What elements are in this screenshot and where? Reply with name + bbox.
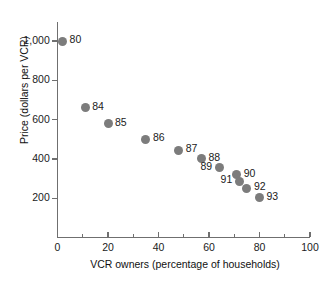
x-tick-40 <box>158 232 159 237</box>
y-tick-1,000 <box>52 40 57 41</box>
data-point-marker-87 <box>174 146 183 155</box>
y-tick-label-200: 200 <box>8 191 50 203</box>
x-tick-label-100: 100 <box>290 241 330 253</box>
y-tick-400 <box>52 158 57 159</box>
data-point-label-92: 92 <box>254 180 266 192</box>
data-point-label-89: 89 <box>200 160 212 172</box>
data-point-marker-84 <box>81 103 90 112</box>
x-tick-80 <box>259 232 260 237</box>
x-tick-label-80: 80 <box>240 241 280 253</box>
y-axis-title: Price (dollars per VCR) <box>18 15 30 165</box>
data-point-marker-89 <box>215 163 224 172</box>
x-tick-minor-50 <box>183 234 184 237</box>
x-tick-100 <box>309 232 310 237</box>
x-tick-minor-70 <box>234 234 235 237</box>
data-point-label-90: 90 <box>244 167 256 179</box>
x-axis-line <box>57 237 310 238</box>
data-point-marker-92 <box>242 184 251 193</box>
x-tick-20 <box>107 232 108 237</box>
data-point-marker-85 <box>104 119 113 128</box>
data-point-label-86: 86 <box>153 131 165 143</box>
y-axis-line <box>57 22 58 238</box>
data-point-marker-93 <box>255 193 264 202</box>
data-point-marker-86 <box>141 135 150 144</box>
data-point-marker-80 <box>58 37 67 46</box>
y-tick-600 <box>52 119 57 120</box>
data-point-label-85: 85 <box>115 116 127 128</box>
y-tick-200 <box>52 198 57 199</box>
x-tick-minor-90 <box>284 234 285 237</box>
x-tick-60 <box>208 232 209 237</box>
x-tick-minor-30 <box>133 234 134 237</box>
x-tick-label-20: 20 <box>88 241 128 253</box>
data-point-label-84: 84 <box>92 100 104 112</box>
x-tick-label-40: 40 <box>139 241 179 253</box>
x-tick-label-60: 60 <box>189 241 229 253</box>
data-point-label-93: 93 <box>267 190 279 202</box>
data-point-label-80: 80 <box>70 33 82 45</box>
scatter-chart: 2004006008001,000 020406080100 808485868… <box>0 0 330 286</box>
x-tick-minor-10 <box>82 234 83 237</box>
y-tick-800 <box>52 80 57 81</box>
x-tick-label-0: 0 <box>38 241 78 253</box>
data-point-label-91: 91 <box>221 173 233 185</box>
data-point-label-87: 87 <box>186 142 198 154</box>
x-axis-title: VCR owners (percentage of households) <box>57 258 313 270</box>
